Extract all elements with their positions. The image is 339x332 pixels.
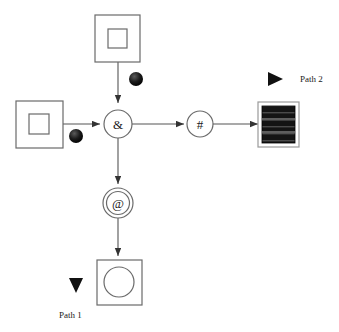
striped-fill: [262, 106, 295, 143]
path-1-arrow[interactable]: [69, 129, 83, 293]
node-at-label: @: [112, 196, 124, 211]
diagram-canvas: & # @ Path 2: [0, 0, 339, 332]
path-1-label: Path 1: [59, 310, 82, 320]
path-1-start-dot: [69, 129, 83, 143]
node-and[interactable]: &: [104, 110, 132, 138]
node-striped-sink[interactable]: [258, 102, 299, 147]
diagram-svg: & # @ Path 2: [0, 0, 339, 332]
node-top-source[interactable]: [95, 15, 140, 62]
node-hash-label: #: [197, 117, 204, 132]
node-at[interactable]: @: [103, 188, 133, 218]
path-2-arrow[interactable]: [129, 72, 283, 86]
node-hash[interactable]: #: [187, 111, 213, 137]
node-left-source[interactable]: [16, 101, 63, 148]
node-circle-in-square-sink[interactable]: [97, 260, 142, 305]
node-and-label: &: [113, 117, 123, 132]
path-2-start-dot: [129, 72, 143, 86]
path-2-label: Path 2: [300, 74, 323, 84]
